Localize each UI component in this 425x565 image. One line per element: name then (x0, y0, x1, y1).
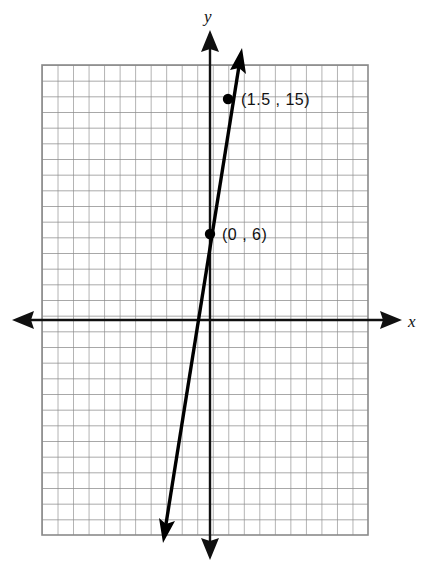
point-label-lower: (0 , 6) (222, 226, 267, 243)
point-marker-lower (205, 229, 215, 239)
point-marker-upper (223, 94, 233, 104)
grid-cells (42, 65, 368, 535)
coordinate-plane-graph: (1.5 , 15) (0 , 6) y x (0, 0, 425, 565)
point-label-upper: (1.5 , 15) (241, 91, 310, 108)
y-axis-label: y (202, 7, 212, 26)
grid (42, 65, 368, 535)
x-axis-label: x (407, 312, 416, 331)
